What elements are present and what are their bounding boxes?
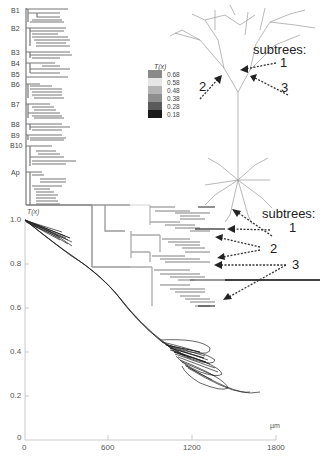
y-tick-0.2: 0.2: [10, 391, 21, 400]
legend-label: 0.28: [167, 103, 180, 110]
y-tick-0.4: 0.4: [10, 347, 21, 356]
legend-label: 0.58: [167, 79, 180, 86]
legend: T(x) 0.68 0.58 0.48 0.38 0.28 0.18: [148, 63, 198, 118]
subtree-number-1-middle: 1: [289, 220, 296, 235]
legend-label: 0.18: [167, 111, 180, 118]
y-tick-1.0: 1.0: [10, 215, 21, 224]
y-tick-0.8: 0.8: [10, 259, 21, 268]
x-tick-1200: 1200: [183, 443, 201, 452]
legend-swatch: [148, 78, 162, 86]
subtree-number-3-top: 3: [281, 80, 288, 95]
subtree-number-2-middle: 2: [270, 241, 277, 256]
legend-swatch: [148, 102, 162, 110]
legend-label: 0.68: [167, 71, 180, 78]
attenuation-curves: [25, 220, 260, 393]
y-axis-label: T(x): [27, 208, 39, 215]
legend-title: T(x): [154, 63, 198, 70]
y-tick-0.6: 0.6: [10, 303, 21, 312]
x-tick-0: 0: [22, 443, 26, 452]
subtree-number-2-top: 2: [199, 79, 206, 94]
subtree-number-1-top: 1: [280, 55, 287, 70]
y-tick-0: 0: [17, 433, 21, 442]
subtrees-label-middle: subtrees:: [262, 206, 315, 221]
subtree-number-3-middle: 3: [292, 257, 299, 272]
x-tick-1800: 1800: [267, 443, 285, 452]
legend-swatch: [148, 86, 162, 94]
legend-swatch: [148, 110, 162, 118]
basal-dendrogram: [26, 8, 76, 205]
legend-swatch: [148, 94, 162, 102]
legend-swatch: [148, 70, 162, 78]
legend-label: 0.48: [167, 87, 180, 94]
x-tick-600: 600: [101, 443, 114, 452]
x-unit-label: µm: [270, 422, 280, 429]
legend-label: 0.38: [167, 95, 180, 102]
